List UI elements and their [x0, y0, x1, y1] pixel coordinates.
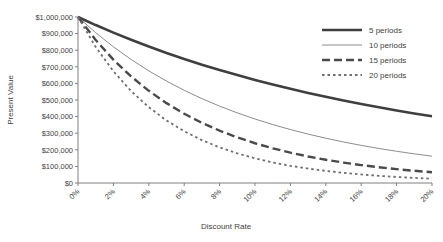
- y-tick-label: $700,000: [42, 63, 73, 72]
- legend-label: 5 periods: [369, 26, 402, 35]
- y-tick-label: $300,000: [42, 129, 73, 138]
- x-tick-label: 2%: [103, 187, 117, 201]
- legend-label: 10 periods: [369, 41, 406, 50]
- y-tick-label: $800,000: [42, 46, 73, 55]
- y-tick-label: $0: [65, 179, 73, 188]
- y-axis-tick-labels: $0$100,000$200,000$300,000$400,000$500,0…: [35, 13, 73, 188]
- x-tick-label: 10%: [241, 187, 258, 204]
- y-tick-label: $1,000,000: [35, 13, 73, 22]
- present-value-chart: $0$100,000$200,000$300,000$400,000$500,0…: [0, 0, 443, 242]
- x-tick-label: 14%: [312, 187, 329, 204]
- x-tick-label: 8%: [209, 187, 223, 201]
- y-axis-title: Present Value: [6, 75, 15, 125]
- x-tick-label: 0%: [67, 187, 81, 201]
- x-tick-label: 16%: [348, 187, 365, 204]
- legend-label: 15 periods: [369, 56, 406, 65]
- x-tick-label: 12%: [277, 187, 294, 204]
- y-tick-label: $200,000: [42, 146, 73, 155]
- x-tick-label: 20%: [418, 187, 435, 204]
- y-tick-label: $500,000: [42, 96, 73, 105]
- chart-canvas: $0$100,000$200,000$300,000$400,000$500,0…: [0, 0, 443, 242]
- y-tick-label: $600,000: [42, 79, 73, 88]
- y-tick-label: $100,000: [42, 162, 73, 171]
- x-tick-label: 18%: [383, 187, 400, 204]
- y-tick-label: $400,000: [42, 112, 73, 121]
- x-axis-title: Discount Rate: [201, 222, 252, 231]
- x-tick-label: 4%: [138, 187, 152, 201]
- legend-label: 20 periods: [369, 71, 406, 80]
- y-tick-label: $900,000: [42, 29, 73, 38]
- x-tick-label: 6%: [174, 187, 188, 201]
- x-axis-tick-labels: 0%2%4%6%8%10%12%14%16%18%20%: [67, 187, 435, 204]
